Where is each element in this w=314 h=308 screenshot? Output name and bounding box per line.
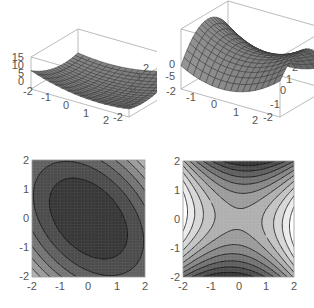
y-tick-label: 2 (292, 61, 298, 73)
contour-plot-saddle: -2-1012210-1-2 (157, 150, 314, 308)
z-tick-label: 0 (169, 58, 175, 70)
contour-plot-saddle-svg: -2-1012210-1-2 (157, 150, 314, 308)
x-tick-label: 0 (85, 280, 91, 292)
y-tick-label: 1 (174, 184, 180, 196)
x-tick-label: 2 (252, 114, 258, 126)
x-tick-label: 0 (63, 99, 69, 111)
y-tick-label: 0 (23, 212, 29, 224)
x-tick-label: -1 (41, 91, 51, 103)
y-tick-label: 2 (143, 62, 149, 74)
y-tick-label: -2 (19, 270, 29, 282)
y-tick-label: 1 (136, 71, 142, 83)
y-tick-label: -1 (270, 98, 280, 110)
y-tick-label: -2 (263, 111, 273, 123)
x-tick-label: 2 (291, 280, 297, 292)
y-tick-label: 2 (174, 155, 180, 167)
y-tick-label: -1 (19, 241, 29, 253)
contour-fill (32, 160, 145, 277)
surface-plot-bowl-svg: 151050-2-1012210-1-2 (0, 0, 157, 150)
y-tick-label: -1 (170, 242, 180, 254)
surface-plot-saddle: 0-5-2-1012210-1-2 (157, 0, 314, 150)
contour-plot-ellipse: -2-1012210-1-2 (0, 150, 157, 308)
x-tick-label: -1 (55, 280, 65, 292)
surface-plot-saddle-svg: 0-5-2-1012210-1-2 (157, 0, 314, 150)
z-tick-label: -5 (165, 70, 175, 82)
y-tick-label: 0 (280, 84, 286, 96)
contour-fill (183, 161, 294, 277)
x-tick-label: -2 (166, 85, 176, 97)
x-tick-label: 1 (114, 280, 120, 292)
x-tick-label: -2 (23, 85, 33, 97)
y-tick-label: 0 (174, 213, 180, 225)
x-tick-label: 2 (142, 280, 148, 292)
x-tick-label: 1 (83, 107, 89, 119)
y-tick-label: 1 (23, 183, 29, 195)
y-tick-label: -2 (170, 271, 180, 283)
y-tick-label: -1 (120, 96, 130, 108)
x-tick-label: 0 (211, 98, 217, 110)
y-tick-label: -2 (113, 111, 123, 123)
x-tick-label: 1 (263, 280, 269, 292)
y-tick-label: 0 (130, 83, 136, 95)
x-tick-label: -1 (206, 280, 216, 292)
surface-plot-bowl: 151050-2-1012210-1-2 (0, 0, 157, 150)
contour-plot-ellipse-svg: -2-1012210-1-2 (0, 150, 157, 308)
x-tick-label: 0 (236, 280, 242, 292)
y-tick-label: 2 (23, 154, 29, 166)
x-tick-label: 2 (103, 114, 109, 126)
x-tick-label: 1 (233, 106, 239, 118)
y-tick-label: 1 (286, 73, 292, 85)
x-tick-label: -1 (186, 91, 196, 103)
surface-mesh (181, 17, 314, 92)
